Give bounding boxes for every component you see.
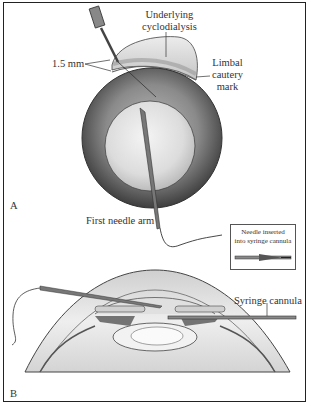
label-underlying-cyclodialysis: Underlying cyclodialysis: [142, 9, 197, 33]
label-text: mark: [212, 81, 243, 93]
label-measurement: 1.5 mm: [52, 58, 84, 70]
panel-a-letter: A: [10, 200, 18, 212]
anterior-segment-cross-section: [25, 270, 290, 372]
illustration: [0, 0, 311, 407]
inset-needle-in-cannula: Needle inserted into syringe cannula: [230, 224, 296, 270]
label-limbal-cautery-mark: Limbal cautery mark: [212, 57, 243, 93]
label-text: cyclodialysis: [142, 21, 197, 33]
needle-cannula-icon: [231, 225, 297, 271]
label-first-needle-arm: First needle arm: [86, 215, 154, 227]
label-text: Underlying: [142, 9, 197, 21]
label-text: Limbal: [212, 57, 243, 69]
label-syringe-cannula: Syringe cannula: [234, 295, 302, 307]
panel-b-letter: B: [10, 388, 17, 400]
label-text: cautery: [212, 69, 243, 81]
